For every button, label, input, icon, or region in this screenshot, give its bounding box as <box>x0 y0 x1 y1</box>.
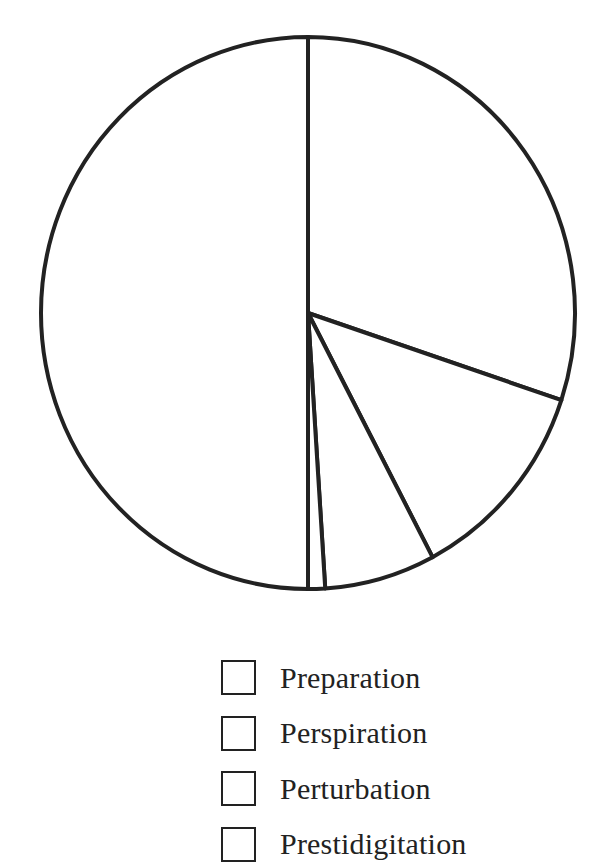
legend-label: Preparation <box>280 663 420 693</box>
legend-item-perturbation: Perturbation <box>221 761 467 817</box>
legend-swatch-icon <box>221 660 256 695</box>
legend-label: Prestidigitation <box>280 829 467 859</box>
legend-swatch-icon <box>221 716 256 751</box>
pie-slice-4 <box>41 37 308 589</box>
legend-item-preparation: Preparation <box>221 650 467 706</box>
legend-item-prestidigitation: Prestidigitation <box>221 817 467 866</box>
legend: Preparation Perspiration Perturbation Pr… <box>221 650 467 866</box>
legend-item-perspiration: Perspiration <box>221 706 467 762</box>
legend-label: Perspiration <box>280 718 427 748</box>
legend-swatch-icon <box>221 771 256 806</box>
pie-slices <box>41 37 575 589</box>
legend-swatch-icon <box>221 827 256 862</box>
legend-label: Perturbation <box>280 774 431 804</box>
